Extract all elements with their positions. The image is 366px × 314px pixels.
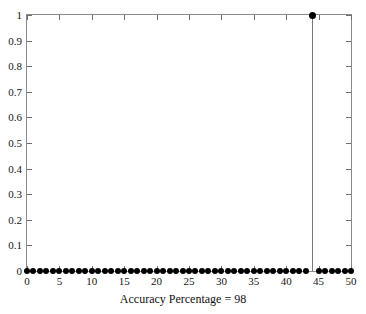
y-tick-label: 0.3 <box>0 189 22 200</box>
data-point <box>329 268 335 274</box>
y-tick-right <box>346 117 351 118</box>
x-tick-top <box>157 15 158 20</box>
data-point <box>89 268 95 274</box>
y-tick-label: 0.7 <box>0 87 22 98</box>
data-point <box>342 268 348 274</box>
x-tick-top <box>92 15 93 20</box>
y-tick-left <box>27 143 32 144</box>
data-point <box>303 268 309 274</box>
x-tick-top <box>286 15 287 20</box>
y-tick-right <box>346 66 351 67</box>
data-point <box>50 268 56 274</box>
chart-figure: 00.10.20.30.40.50.60.70.80.91 0510152025… <box>0 0 366 314</box>
y-tick-left <box>27 220 32 221</box>
y-tick-right <box>346 92 351 93</box>
y-tick-label: 0.9 <box>0 36 22 47</box>
data-point <box>290 268 296 274</box>
data-point <box>128 268 134 274</box>
x-tick-label: 50 <box>331 275 366 288</box>
x-tick-top <box>254 15 255 20</box>
y-tick-right <box>346 143 351 144</box>
data-point <box>225 268 231 274</box>
y-tick-label: 0.8 <box>0 61 22 72</box>
y-tick-label: 1 <box>0 10 22 21</box>
data-point <box>212 268 218 274</box>
x-tick-top <box>221 15 222 20</box>
x-tick-top <box>59 15 60 20</box>
x-tick-top <box>124 15 125 20</box>
data-point <box>76 268 82 274</box>
data-point <box>251 268 257 274</box>
y-tick-left <box>27 117 32 118</box>
y-tick-left <box>27 194 32 195</box>
y-tick-right <box>346 220 351 221</box>
data-point <box>348 268 354 274</box>
y-tick-label: 0.4 <box>0 164 22 175</box>
data-point <box>173 268 179 274</box>
x-tick-top <box>319 15 320 20</box>
data-point <box>24 268 30 274</box>
y-tick-label: 0.6 <box>0 112 22 123</box>
plot-inner <box>27 15 351 271</box>
data-point <box>115 268 121 274</box>
data-point-peak <box>309 12 316 19</box>
data-point <box>102 268 108 274</box>
x-axis-title: Accuracy Percentage = 98 <box>0 292 366 307</box>
y-tick-left <box>27 245 32 246</box>
data-point <box>277 268 283 274</box>
data-point <box>186 268 192 274</box>
y-tick-left <box>27 15 32 16</box>
data-point <box>154 268 160 274</box>
data-point <box>63 268 69 274</box>
data-point <box>316 268 322 274</box>
y-tick-right <box>346 15 351 16</box>
data-point <box>199 268 205 274</box>
y-tick-right <box>346 169 351 170</box>
data-point <box>335 268 341 274</box>
x-tick-top <box>189 15 190 20</box>
data-stem <box>312 15 313 271</box>
y-tick-label: 0.1 <box>0 240 22 251</box>
y-tick-left <box>27 41 32 42</box>
y-tick-right <box>346 194 351 195</box>
y-tick-left <box>27 66 32 67</box>
data-point <box>180 268 186 274</box>
data-point <box>238 268 244 274</box>
data-point <box>141 268 147 274</box>
data-point <box>167 268 173 274</box>
y-tick-label: 0.5 <box>0 138 22 149</box>
x-tick-top <box>351 15 352 20</box>
data-point <box>264 268 270 274</box>
data-point <box>37 268 43 274</box>
y-tick-label: 0.2 <box>0 215 22 226</box>
y-tick-right <box>346 245 351 246</box>
y-tick-left <box>27 169 32 170</box>
plot-area <box>26 14 352 272</box>
y-tick-right <box>346 41 351 42</box>
y-tick-left <box>27 92 32 93</box>
